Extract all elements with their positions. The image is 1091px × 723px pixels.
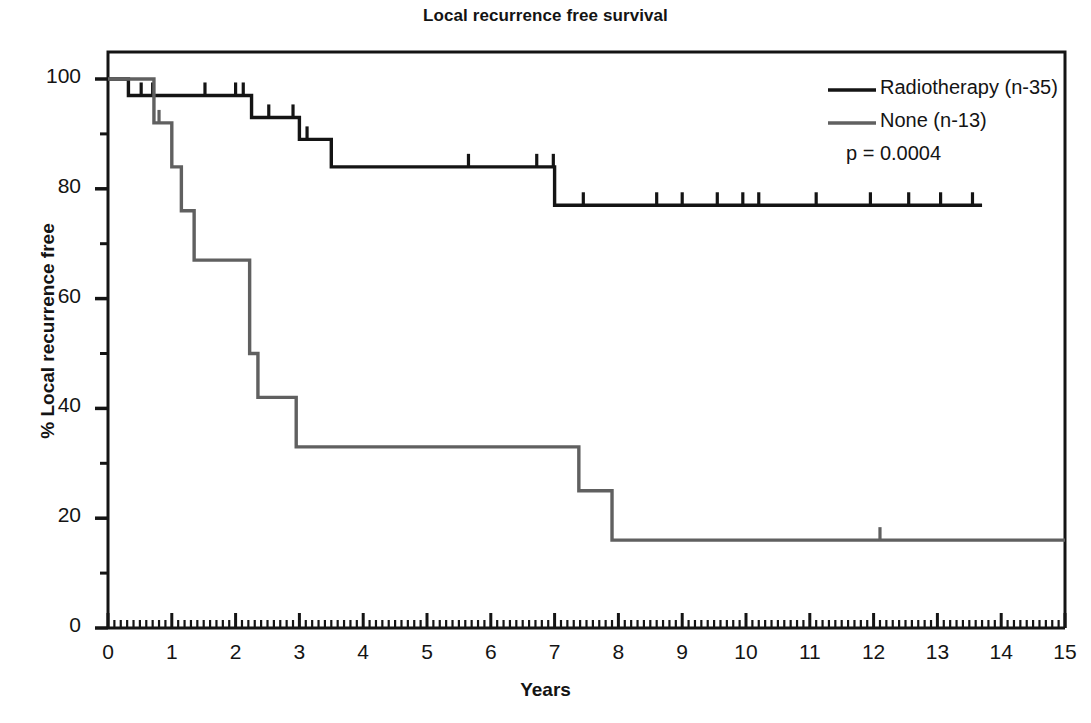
x-tick-label: 14 bbox=[981, 640, 1021, 664]
x-tick-label: 10 bbox=[726, 640, 766, 664]
x-tick-label: 0 bbox=[88, 640, 128, 664]
x-tick-label: 13 bbox=[917, 640, 957, 664]
x-tick-label: 2 bbox=[216, 640, 256, 664]
x-tick-label: 6 bbox=[471, 640, 511, 664]
chart-figure: Local recurrence free survival % Local r… bbox=[0, 0, 1091, 723]
y-tick-label: 40 bbox=[11, 393, 81, 417]
y-tick-label: 80 bbox=[11, 174, 81, 198]
x-tick-label: 5 bbox=[407, 640, 447, 664]
legend-label-1: None (n-13) bbox=[880, 109, 987, 132]
x-tick-label: 3 bbox=[279, 640, 319, 664]
x-tick-label: 9 bbox=[662, 640, 702, 664]
x-tick-label: 1 bbox=[152, 640, 192, 664]
legend-label-0: Radiotherapy (n-35) bbox=[880, 76, 1058, 99]
x-tick-label: 11 bbox=[790, 640, 830, 664]
x-tick-label: 12 bbox=[854, 640, 894, 664]
x-tick-label: 8 bbox=[598, 640, 638, 664]
p-value-annotation: p = 0.0004 bbox=[846, 142, 941, 165]
y-tick-label: 100 bbox=[11, 64, 81, 88]
y-tick-label: 60 bbox=[11, 284, 81, 308]
x-tick-label: 15 bbox=[1045, 640, 1085, 664]
x-tick-label: 7 bbox=[535, 640, 575, 664]
x-tick-label: 4 bbox=[343, 640, 383, 664]
y-tick-label: 20 bbox=[11, 503, 81, 527]
y-tick-label: 0 bbox=[11, 613, 81, 637]
